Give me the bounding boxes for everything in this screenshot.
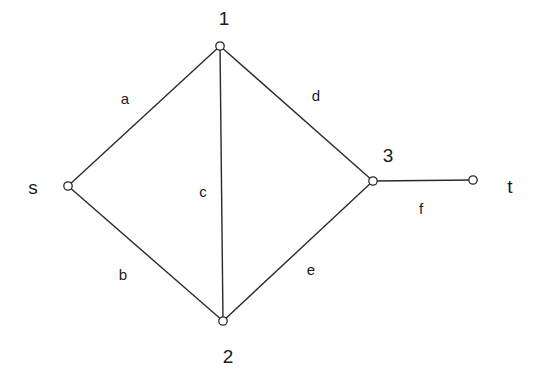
network-diagram: abcdef s123t xyxy=(0,0,536,392)
edge-label-e: e xyxy=(307,261,315,278)
edge-label-d: d xyxy=(312,87,320,104)
edge-labels-layer: abcdef xyxy=(119,87,424,283)
node-label-3: 3 xyxy=(383,145,394,166)
edge-label-b: b xyxy=(119,266,127,283)
node-label-2: 2 xyxy=(223,346,234,367)
edges-layer xyxy=(68,46,473,321)
edge-c xyxy=(220,46,223,321)
edge-f xyxy=(373,180,473,181)
edge-label-a: a xyxy=(121,90,130,107)
node-label-t: t xyxy=(507,176,513,197)
node-1 xyxy=(216,42,224,50)
node-label-1: 1 xyxy=(219,8,230,29)
edge-label-f: f xyxy=(419,200,424,217)
node-t xyxy=(469,176,477,184)
node-2 xyxy=(219,317,227,325)
node-label-s: s xyxy=(28,177,38,198)
node-s xyxy=(64,182,72,190)
edge-b xyxy=(68,186,223,321)
edge-label-c: c xyxy=(199,183,207,200)
edge-d xyxy=(220,46,373,181)
edge-e xyxy=(223,181,373,321)
edge-a xyxy=(68,46,220,186)
node-3 xyxy=(369,177,377,185)
node-labels-layer: s123t xyxy=(28,8,513,367)
